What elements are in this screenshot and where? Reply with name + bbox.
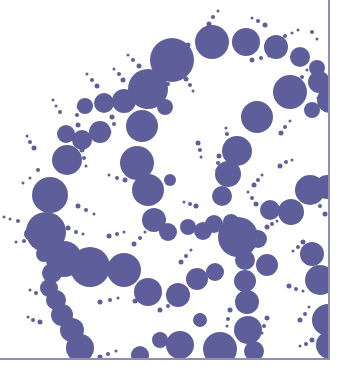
dot — [82, 233, 85, 236]
dot — [179, 260, 184, 265]
dot — [301, 240, 306, 245]
dot — [38, 320, 43, 325]
dot — [84, 208, 88, 212]
dot — [138, 236, 142, 240]
dot — [294, 287, 298, 291]
circle — [249, 230, 267, 248]
dot — [306, 69, 309, 72]
dot — [304, 342, 308, 346]
dot — [323, 212, 328, 217]
circle — [77, 98, 93, 114]
circle — [304, 102, 320, 118]
dot — [291, 159, 294, 162]
dot — [278, 164, 283, 169]
circle — [36, 246, 52, 262]
dot — [149, 293, 152, 296]
circle — [152, 332, 168, 348]
circle — [290, 47, 310, 67]
dot — [36, 168, 40, 172]
circle — [195, 25, 229, 59]
circle — [72, 130, 92, 150]
circle — [264, 35, 288, 59]
circle — [316, 331, 328, 358]
circle — [234, 316, 262, 344]
circle-pattern — [0, 0, 328, 358]
dot — [131, 58, 135, 62]
dot — [113, 68, 116, 71]
dot — [76, 204, 81, 209]
dot — [284, 160, 288, 164]
dot — [194, 204, 199, 209]
dot — [183, 201, 186, 204]
dot — [74, 230, 78, 234]
dot — [211, 15, 215, 19]
dot — [166, 304, 170, 308]
circle — [70, 247, 110, 287]
dot — [259, 56, 263, 60]
dot — [108, 174, 111, 177]
dot — [256, 19, 260, 23]
circle — [235, 250, 255, 270]
dot — [98, 300, 103, 305]
dot — [117, 297, 120, 300]
dot — [90, 78, 94, 82]
circle — [278, 199, 304, 225]
circle — [166, 331, 194, 358]
dot — [186, 43, 191, 48]
dot — [75, 113, 79, 117]
dot — [66, 226, 71, 231]
dot — [291, 32, 294, 35]
dot — [217, 154, 222, 159]
dot — [77, 106, 80, 109]
dot — [22, 182, 25, 185]
circle — [300, 242, 324, 266]
dot — [198, 148, 202, 152]
dot — [110, 115, 115, 120]
dot — [127, 54, 130, 57]
dot — [250, 58, 255, 63]
dot — [226, 140, 231, 145]
dot — [310, 30, 314, 34]
dot — [133, 299, 138, 304]
dot — [144, 231, 147, 234]
dot — [158, 308, 163, 313]
dot — [318, 204, 322, 208]
dot — [225, 132, 229, 136]
dot — [263, 23, 268, 28]
dot — [315, 197, 318, 200]
dot — [283, 125, 287, 129]
dot — [184, 77, 189, 82]
circle — [194, 222, 212, 240]
circle — [24, 228, 36, 240]
dot — [166, 82, 170, 86]
dot — [29, 177, 32, 180]
circle — [312, 304, 328, 336]
dot — [85, 165, 88, 168]
dot — [34, 291, 38, 295]
circle — [112, 89, 136, 113]
dot — [184, 254, 188, 258]
dot — [163, 91, 166, 94]
circle — [305, 265, 328, 295]
dot — [132, 242, 137, 247]
dot — [287, 284, 292, 289]
dot — [115, 350, 118, 353]
circle — [206, 263, 224, 281]
dot — [106, 352, 110, 356]
circle — [232, 28, 260, 56]
dot — [303, 312, 307, 316]
dot — [188, 202, 192, 206]
dot — [188, 83, 192, 87]
dot — [296, 245, 300, 249]
dot — [26, 135, 29, 138]
circle — [180, 219, 196, 235]
dot — [58, 110, 62, 114]
dot — [247, 191, 250, 194]
dot — [261, 174, 264, 177]
dot — [141, 296, 145, 300]
dot — [279, 131, 284, 136]
dot — [226, 325, 229, 328]
dot — [15, 241, 18, 244]
dot — [55, 105, 58, 108]
dot — [207, 22, 212, 27]
